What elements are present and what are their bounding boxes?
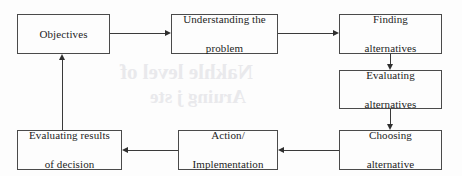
flowchart-diagram: Nakhle level of Aruing j ste Objectives … — [0, 0, 462, 176]
line-1: Choosing — [364, 128, 418, 143]
node-action-implementation-label: Action/ Implementation — [186, 128, 269, 172]
arrowhead-objectives-to-understanding — [165, 30, 171, 36]
edge-evaluating-results-to-objectives — [62, 60, 63, 130]
line-2: problem — [180, 41, 269, 56]
scan-bleed-artifact-line-2: Aruing j ste — [150, 86, 246, 108]
edge-evaluating-alternatives-to-choosing — [390, 109, 391, 124]
line-2: Implementation — [189, 157, 266, 172]
node-evaluating-alternatives[interactable]: Evaluating alternatives — [339, 70, 442, 109]
edge-finding-to-evaluating-alternatives — [390, 54, 391, 64]
arrowhead-finding-to-evaluating-alternatives — [387, 64, 393, 70]
arrowhead-understanding-to-finding — [333, 30, 339, 36]
node-choosing-alternative[interactable]: Choosing alternative — [339, 130, 442, 170]
node-objectives[interactable]: Objectives — [17, 14, 110, 54]
edge-action-to-evaluating-results — [128, 150, 178, 151]
edge-understanding-to-finding — [278, 33, 333, 34]
arrowhead-evaluating-results-to-objectives — [59, 54, 65, 60]
arrowhead-action-to-evaluating-results — [122, 147, 128, 153]
line-2: alternative — [364, 157, 418, 172]
node-finding-alternatives-label: Finding alternatives — [359, 12, 423, 56]
node-evaluating-alternatives-label: Evaluating alternatives — [359, 68, 423, 112]
arrowhead-evaluating-alternatives-to-choosing — [387, 124, 393, 130]
line-1: Action/ — [189, 128, 266, 143]
node-objectives-label: Objectives — [36, 27, 90, 42]
edge-choosing-to-action — [284, 150, 339, 151]
arrowhead-choosing-to-action — [278, 147, 284, 153]
node-understanding-the-problem-label: Understanding the problem — [177, 12, 272, 56]
line-1: Finding — [362, 12, 420, 27]
node-evaluating-results-of-decision[interactable]: Evaluating results of decision — [17, 130, 122, 170]
scan-bleed-artifact-line-1: Nakhle level of — [120, 60, 253, 85]
line-2: of decision — [26, 157, 113, 172]
node-action-implementation[interactable]: Action/ Implementation — [178, 130, 278, 170]
node-choosing-alternative-label: Choosing alternative — [361, 128, 421, 172]
node-finding-alternatives[interactable]: Finding alternatives — [339, 14, 442, 54]
node-evaluating-results-of-decision-label: Evaluating results of decision — [23, 128, 116, 172]
line-1: Evaluating results — [26, 128, 113, 143]
line-1: Understanding the — [180, 12, 269, 27]
node-understanding-the-problem[interactable]: Understanding the problem — [171, 14, 278, 54]
edge-objectives-to-understanding — [110, 33, 165, 34]
